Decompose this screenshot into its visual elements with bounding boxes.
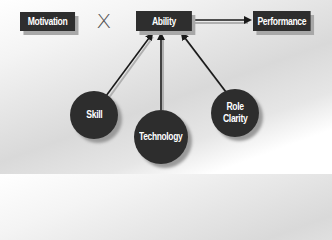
- ability-node: Ability: [136, 11, 192, 31]
- ability-label: Ability: [152, 16, 176, 27]
- role-clarity-node: Role Clarity: [211, 89, 259, 137]
- performance-node: Performance: [253, 11, 311, 31]
- skill-node: Skill: [70, 91, 118, 139]
- multiply-operator: X: [96, 11, 111, 31]
- technology-node: Technology: [134, 110, 188, 164]
- role-clarity-label-line1: Role: [226, 101, 243, 113]
- skill-label: Skill: [86, 109, 102, 121]
- motivation-node: Motivation: [20, 12, 75, 31]
- motivation-label: Motivation: [28, 16, 68, 27]
- arrow-skill-to-ability: [106, 34, 152, 96]
- role-clarity-label-line2: Clarity: [223, 113, 247, 125]
- diagram-canvas: Motivation X Ability Performance Skill T…: [0, 0, 332, 174]
- performance-label: Performance: [257, 16, 306, 27]
- technology-label: Technology: [139, 131, 182, 143]
- arrow-role-clarity-to-ability: [182, 34, 226, 92]
